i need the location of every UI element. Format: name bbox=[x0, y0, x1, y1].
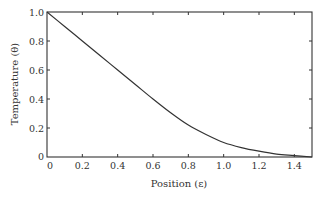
temperature-curve bbox=[47, 12, 312, 157]
temperature-position-chart: 00.20.40.60.81.01.21.4 00.20.40.60.81.0 … bbox=[0, 0, 323, 199]
x-tick-label: 0.8 bbox=[181, 160, 196, 171]
x-tick-label: 1.0 bbox=[216, 160, 231, 171]
y-axis-ticks: 00.20.40.60.81.0 bbox=[29, 7, 312, 162]
y-tick-label: 0.4 bbox=[29, 94, 44, 105]
x-tick-label: 0.4 bbox=[110, 160, 125, 171]
y-tick-label: 0.6 bbox=[29, 65, 44, 76]
plot-frame bbox=[47, 12, 312, 157]
y-tick-label: 0.8 bbox=[29, 36, 44, 47]
x-tick-label: 0 bbox=[47, 160, 53, 171]
y-tick-label: 0.2 bbox=[29, 123, 44, 134]
x-tick-label: 1.4 bbox=[287, 160, 302, 171]
x-tick-label: 0.6 bbox=[145, 160, 160, 171]
y-tick-label: 1.0 bbox=[29, 7, 44, 18]
y-axis-label: Temperature (θ) bbox=[9, 43, 20, 126]
y-tick-label: 0 bbox=[38, 151, 44, 162]
x-axis-label: Position (ε) bbox=[151, 178, 208, 189]
chart-canvas: 00.20.40.60.81.01.21.4 00.20.40.60.81.0 … bbox=[0, 0, 323, 199]
plot-border bbox=[47, 12, 312, 157]
data-series bbox=[47, 12, 312, 157]
x-tick-label: 1.2 bbox=[251, 160, 266, 171]
x-axis-ticks: 00.20.40.60.81.01.21.4 bbox=[47, 12, 302, 171]
x-tick-label: 0.2 bbox=[75, 160, 90, 171]
